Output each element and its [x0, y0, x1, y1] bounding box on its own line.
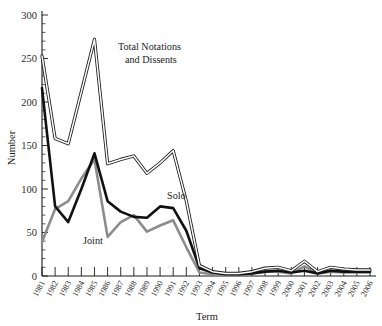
series-line-solo [42, 88, 370, 274]
x-tick-label: 2002 [307, 279, 323, 298]
x-tick-label: 1997 [241, 279, 257, 298]
y-tick-label: 300 [21, 10, 37, 21]
x-tick-label: 2001 [294, 279, 310, 298]
x-tick-label: 1982 [44, 279, 60, 298]
x-tick-label: 1989 [136, 279, 152, 298]
chart-container: 050100150200250300 198119821983198419851… [0, 0, 382, 326]
y-axis-title: Number [6, 130, 17, 165]
annotation-joint: Joint [83, 235, 103, 246]
y-tick-label: 200 [21, 97, 37, 108]
x-tick-label: 2006 [359, 279, 375, 298]
x-tick-label: 1991 [162, 279, 178, 298]
x-tick-label: 1996 [228, 279, 244, 298]
line-chart-svg: 050100150200250300 198119821983198419851… [0, 0, 382, 326]
x-tick-label: 1985 [84, 279, 100, 298]
x-tick-label: 2003 [320, 279, 336, 298]
y-tick-label: 150 [21, 140, 37, 151]
x-tick-label: 1992 [175, 279, 191, 298]
y-tick-label: 0 [32, 271, 37, 282]
annotation-total-notations: Total Notations [118, 41, 181, 52]
y-tick-label: 100 [21, 184, 37, 195]
y-tick-label: 50 [27, 227, 38, 238]
x-tick-label: 1999 [267, 279, 283, 298]
x-tick-label: 1981 [31, 279, 47, 298]
x-tick-label: 1995 [215, 279, 231, 298]
x-tick-label: 2000 [280, 279, 296, 298]
x-tick-label: 2005 [346, 279, 362, 298]
series-line-joint [42, 159, 370, 274]
annotation-solo: Solo [167, 190, 186, 201]
x-tick-label: 1986 [97, 279, 113, 298]
annotation-and-dissents: and Dissents [125, 54, 177, 65]
x-tick-label: 1983 [57, 279, 73, 298]
x-axis-tick-labels: 1981198219831984198519861987198819891990… [31, 278, 375, 298]
y-tick-label: 250 [21, 53, 37, 64]
x-tick-label: 1988 [123, 279, 139, 298]
x-tick-label: 1998 [254, 279, 270, 298]
x-tick-label: 1987 [110, 279, 126, 298]
x-axis-title: Term [196, 311, 218, 322]
x-tick-label: 1993 [189, 279, 205, 298]
x-tick-label: 1990 [149, 279, 165, 298]
y-axis-tick-labels: 050100150200250300 [21, 10, 37, 282]
